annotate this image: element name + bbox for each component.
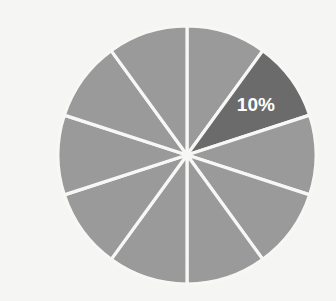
pie-chart-figure: 10% bbox=[0, 0, 336, 301]
pie-labels-group: 10% bbox=[237, 94, 275, 115]
pie-slices-group bbox=[58, 26, 316, 284]
pie-chart-canvas: 10% bbox=[0, 0, 336, 301]
pie-slice-percent-label: 10% bbox=[237, 94, 275, 115]
